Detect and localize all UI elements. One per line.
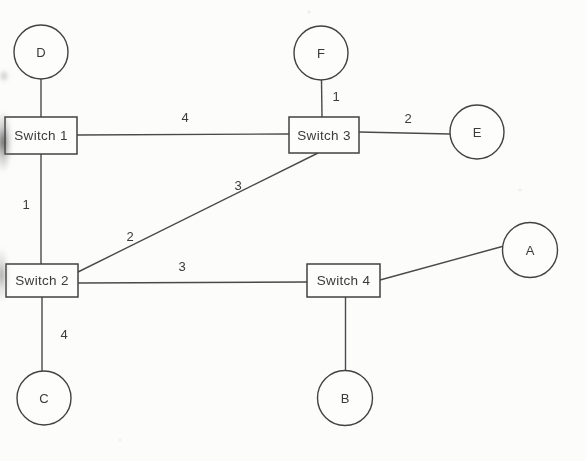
link-switch-4-A [380, 246, 504, 280]
diagram-layer: 41213234Switch 1Switch 2Switch 3Switch 4… [5, 25, 558, 426]
link-weight-label: 1 [332, 89, 339, 104]
switch-label-switch-3: Switch 3 [297, 128, 350, 143]
link-weight-label: 2 [126, 229, 133, 244]
link-switch-2-switch-4 [78, 282, 307, 283]
link-weight-label: 2 [404, 111, 411, 126]
link-weight-label: 3 [234, 178, 241, 193]
link-weight-label: 4 [60, 327, 67, 342]
link-weight-label: 1 [22, 197, 29, 212]
link-switch-2-switch-3 [78, 153, 318, 272]
network-topology-diagram: 41213234Switch 1Switch 2Switch 3Switch 4… [0, 0, 586, 461]
link-weight-label: 3 [178, 259, 185, 274]
host-label-F: F [317, 46, 325, 61]
switch-label-switch-4: Switch 4 [317, 273, 371, 288]
host-label-A: A [526, 243, 535, 258]
link-switch-1-switch-3 [77, 134, 289, 135]
diagram-svg: 41213234Switch 1Switch 2Switch 3Switch 4… [0, 0, 586, 461]
switch-label-switch-2: Switch 2 [15, 273, 68, 288]
link-switch-3-E [359, 132, 450, 134]
host-label-C: C [39, 391, 48, 406]
switch-label-switch-1: Switch 1 [14, 128, 67, 143]
host-label-D: D [36, 45, 45, 60]
host-label-E: E [473, 125, 482, 140]
link-weight-label: 4 [181, 110, 188, 125]
host-label-B: B [341, 391, 350, 406]
link-F-switch-3 [322, 80, 323, 117]
